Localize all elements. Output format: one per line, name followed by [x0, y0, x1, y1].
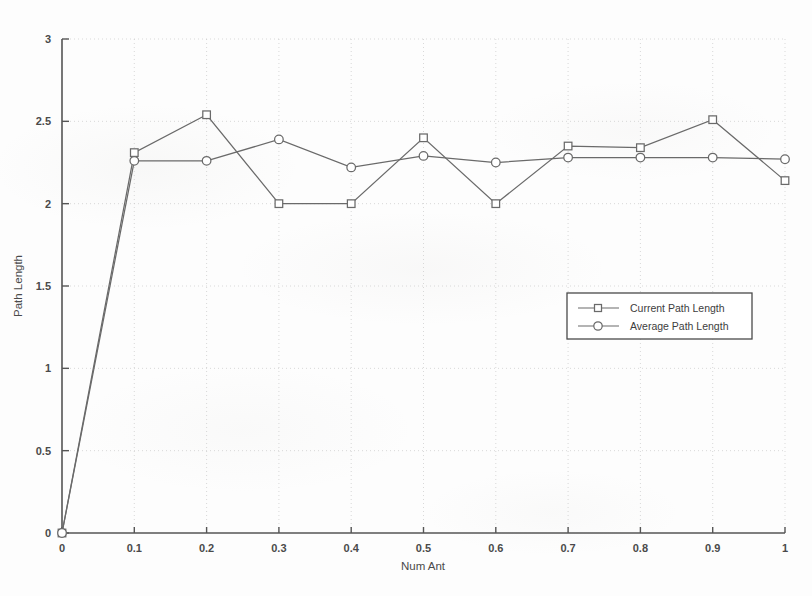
x-tick-label: 1: [782, 542, 788, 554]
square-marker-icon: [564, 142, 572, 150]
circle-marker-icon: [58, 529, 67, 538]
x-tick-label: 0.5: [416, 542, 431, 554]
gridlines-group: [62, 39, 785, 533]
x-tick-labels: 00.10.20.30.40.50.60.70.80.91: [59, 542, 788, 554]
circle-marker-icon: [708, 153, 717, 162]
square-marker-icon: [347, 200, 355, 208]
square-marker-icon: [131, 149, 139, 157]
circle-marker-icon: [347, 163, 356, 172]
circle-marker-icon: [275, 135, 284, 144]
square-marker-icon: [275, 200, 283, 208]
circle-marker-icon: [564, 153, 573, 162]
y-tick-label: 0: [45, 527, 51, 539]
x-tick-label: 0.2: [199, 542, 214, 554]
square-marker-icon: [492, 200, 500, 208]
circle-marker-icon: [594, 322, 602, 330]
line-chart: 00.10.20.30.40.50.60.70.80.91 00.511.522…: [0, 0, 812, 596]
square-marker-icon: [637, 144, 645, 152]
circle-marker-icon: [781, 155, 790, 164]
x-tick-label: 0.7: [560, 542, 575, 554]
y-tick-label: 3: [45, 33, 51, 45]
circle-marker-icon: [636, 153, 645, 162]
square-marker-icon: [709, 116, 717, 124]
legend-box: [567, 293, 752, 339]
chart-legend: Current Path Length Average Path Length: [567, 293, 752, 339]
square-marker-icon: [420, 134, 428, 142]
y-tick-label: 0.5: [36, 445, 51, 457]
x-tick-label: 0.8: [633, 542, 648, 554]
y-axis-title: Path Length: [12, 255, 24, 317]
y-tick-label: 1: [45, 362, 51, 374]
x-tick-label: 0.4: [344, 542, 360, 554]
y-tick-label: 1.5: [36, 280, 51, 292]
square-marker-icon: [595, 305, 602, 312]
y-tick-labels: 00.511.522.53: [36, 33, 51, 539]
square-marker-icon: [781, 177, 789, 185]
x-tick-label: 0.3: [271, 542, 286, 554]
y-tick-label: 2: [45, 198, 51, 210]
x-tick-label: 0.9: [705, 542, 720, 554]
square-marker-icon: [203, 111, 211, 119]
circle-marker-icon: [419, 152, 428, 161]
x-axis-title: Num Ant: [401, 560, 446, 572]
legend-entry-label-current: Current Path Length: [630, 302, 725, 314]
circle-marker-icon: [202, 157, 211, 166]
figure-canvas: 00.10.20.30.40.50.60.70.80.91 00.511.522…: [0, 0, 812, 596]
x-tick-label: 0.1: [127, 542, 142, 554]
x-tick-label: 0.6: [488, 542, 503, 554]
legend-entry-label-average: Average Path Length: [630, 320, 729, 332]
y-tick-label: 2.5: [36, 115, 51, 127]
circle-marker-icon: [492, 158, 501, 167]
x-tick-label: 0: [59, 542, 65, 554]
circle-marker-icon: [130, 157, 139, 166]
